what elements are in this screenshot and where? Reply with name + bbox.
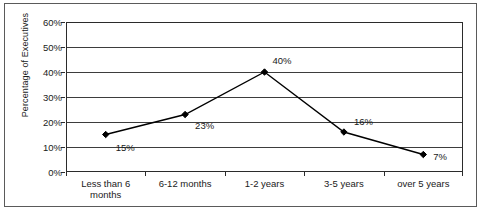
data-point-labels: 15%23%40%16%7% xyxy=(66,22,463,172)
x-axis-tick-mark xyxy=(225,172,226,176)
y-axis-tick-label: 30% xyxy=(28,92,62,103)
x-axis-tick-mark xyxy=(462,172,463,176)
y-axis-tick-mark xyxy=(61,72,65,73)
x-axis-tick-marks xyxy=(66,172,463,177)
x-axis-tick-mark xyxy=(384,172,385,176)
data-point-label: 16% xyxy=(354,116,373,127)
data-point-label: 23% xyxy=(195,119,214,130)
x-axis-tick-label: over 5 years xyxy=(384,178,463,189)
y-axis-tick-mark xyxy=(61,97,65,98)
x-axis-tick-label: 3-5 years xyxy=(304,178,383,189)
y-axis-tick-mark xyxy=(61,172,65,173)
x-axis-tick-label: 6-12 months xyxy=(145,178,224,189)
x-axis-tick-labels: Less than 6 months6-12 months1-2 years3-… xyxy=(66,178,463,210)
y-axis-tick-mark xyxy=(61,122,65,123)
x-axis-tick-label: 1-2 years xyxy=(225,178,304,189)
data-point-label: 15% xyxy=(116,141,135,152)
y-axis-tick-label: 0% xyxy=(28,167,62,178)
y-axis-tick-label: 40% xyxy=(28,67,62,78)
data-point-label: 7% xyxy=(433,150,447,161)
y-axis-tick-mark xyxy=(61,147,65,148)
x-axis-tick-mark xyxy=(66,172,67,176)
data-point-label: 40% xyxy=(273,55,292,66)
x-axis-tick-label: Less than 6 months xyxy=(66,178,145,200)
y-axis-tick-label: 10% xyxy=(28,142,62,153)
chart-figure: Percentage of Executives 0%10%20%30%40%5… xyxy=(0,0,482,217)
y-axis-tick-mark xyxy=(61,22,65,23)
y-axis-tick-mark xyxy=(61,47,65,48)
x-axis-tick-mark xyxy=(304,172,305,176)
y-axis-tick-label: 20% xyxy=(28,117,62,128)
y-axis-tick-labels: 0%10%20%30%40%50%60% xyxy=(28,0,62,217)
y-axis-tick-label: 50% xyxy=(28,42,62,53)
x-axis-tick-mark xyxy=(145,172,146,176)
y-axis-tick-label: 60% xyxy=(28,17,62,28)
